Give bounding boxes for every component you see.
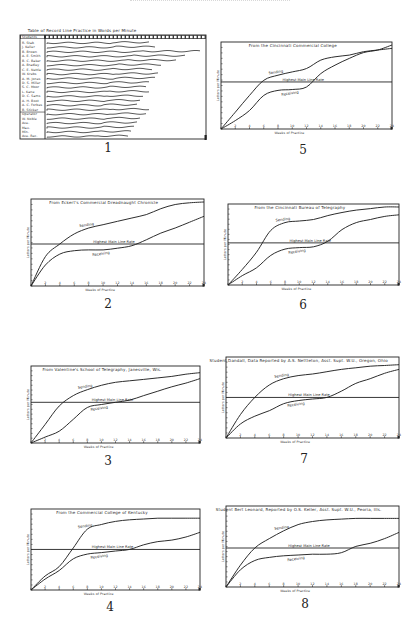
x-tick-label: 4 [248, 124, 250, 128]
figure-number-6: 6 [293, 298, 313, 312]
student-trace [47, 86, 146, 88]
series-receiving-line [221, 45, 392, 129]
table-row-label: Ave. [22, 121, 29, 125]
x-tick-label: 18 [354, 280, 358, 284]
x-tick-label: 14 [130, 281, 134, 285]
figure-2: From Eckert's Commercial Dreadnaught Chr… [25, 197, 207, 295]
x-tick-label: 24 [397, 433, 401, 437]
figure-5: From the Cincinnati Commercial CollegeLe… [215, 40, 395, 138]
student-trace [47, 91, 149, 93]
series-label: Receiving [287, 556, 305, 562]
series-label: Receiving [92, 251, 110, 257]
y-axis-label: Letters per Minute [26, 227, 30, 258]
table-row-label: L. Kane [22, 90, 34, 94]
x-tick-label: 2 [44, 281, 46, 285]
student-trace [47, 51, 200, 53]
series-label: Sending [78, 523, 93, 529]
series-receiving-line [228, 215, 399, 285]
figure-3: From Valentine's School of Telegraphy, J… [25, 364, 203, 452]
table-header-students: Students [22, 35, 37, 39]
x-tick-label: 20 [170, 438, 174, 442]
x-tick-label: 8 [283, 433, 285, 437]
x-tick-label: 22 [382, 433, 386, 437]
x-tick-label: 12 [113, 438, 117, 442]
chart-title: From the Cincinnati Bureau of Telegraphy [254, 205, 345, 210]
figure-4-line-chart: From the Commercial College of KentuckyL… [25, 507, 203, 599]
x-tick-label: 18 [156, 585, 160, 589]
series-receiving-line [31, 532, 200, 590]
x-tick-label: 16 [339, 433, 343, 437]
x-tick-label: 14 [127, 438, 131, 442]
table-row-label: A. Bradley [22, 63, 39, 67]
table-row-label: A. H. Boot [22, 99, 40, 103]
x-tick-label: 24 [397, 582, 401, 586]
figure-7: Student Dandall, Data Reported by A.S. N… [220, 355, 402, 447]
x-tick-label: 12 [113, 585, 117, 589]
x-tick-label: 14 [325, 582, 329, 586]
table-row-label: W. Noble [22, 117, 37, 121]
series-receiving-line [226, 532, 399, 587]
x-tick-label: 20 [368, 582, 372, 586]
student-trace [47, 126, 134, 128]
x-tick-label: 22 [383, 280, 387, 284]
x-tick-label: 12 [115, 281, 119, 285]
x-tick-label: 22 [382, 582, 386, 586]
student-trace [47, 100, 140, 102]
x-tick-label: 20 [368, 280, 372, 284]
x-tick-label: 8 [88, 281, 90, 285]
y-axis-label: Letters per Minute [26, 389, 30, 420]
x-tick-label: 12 [304, 124, 308, 128]
x-tick-label: 4 [254, 433, 256, 437]
series-sending-line [226, 365, 399, 438]
series-sending-line [31, 518, 200, 590]
figure-number-8: 8 [295, 597, 315, 611]
student-trace [47, 59, 176, 61]
x-tick-label: 12 [311, 280, 315, 284]
student-trace [47, 135, 128, 137]
student-trace [47, 64, 161, 66]
x-tick-label: 22 [184, 585, 188, 589]
figure-number-2: 2 [98, 297, 118, 311]
figure-8-line-chart: Student Bert Leonard, Reported by O.S. K… [220, 504, 402, 596]
x-tick-label: 24 [397, 280, 401, 284]
x-tick-label: 10 [296, 433, 300, 437]
x-tick-label: 14 [127, 585, 131, 589]
student-trace [47, 117, 140, 119]
chart-title: From Eckert's Commercial Dreadnaught Chr… [49, 200, 158, 205]
x-tick-label: 2 [234, 124, 236, 128]
table-row-label: A. M. Jones [22, 77, 41, 81]
student-trace [47, 68, 152, 70]
x-axis-label: Weeks of Practice [280, 440, 310, 444]
student-trace [47, 95, 143, 97]
chart-title: Student Bert Leonard, Reported by O.S. K… [216, 507, 382, 512]
x-tick-label: 20 [170, 585, 174, 589]
figure-6: From the Cincinnati Bureau of Telegraphy… [222, 202, 402, 294]
x-tick-label: 6 [73, 281, 75, 285]
series-sending-line [226, 518, 399, 587]
table-caption: Table of Record Line Practice in Words p… [27, 28, 137, 33]
figure-number-3: 3 [98, 454, 118, 468]
x-tick-label: 20 [173, 281, 177, 285]
student-trace [47, 108, 149, 110]
figure-number-4: 4 [100, 600, 120, 614]
threshold-label: Highest Main Line Rate [288, 544, 330, 548]
y-axis-label: Letters per Minute [223, 229, 227, 260]
x-tick-label: 2 [44, 438, 46, 442]
x-tick-label: 16 [339, 582, 343, 586]
series-receiving-line [31, 379, 200, 443]
x-axis-label: Weeks of Practice [84, 445, 114, 449]
x-tick-label: 10 [101, 281, 105, 285]
x-tick-label: 16 [333, 124, 337, 128]
series-label: Sending [274, 525, 289, 531]
x-tick-label: 18 [354, 433, 358, 437]
x-tick-label: 14 [326, 280, 330, 284]
figure-number-7: 7 [294, 452, 314, 466]
x-tick-label: 22 [187, 281, 191, 285]
table-row-label: Max. [22, 126, 30, 130]
table-row-label: D. C. Sams [22, 94, 41, 98]
x-tick-label: 8 [86, 585, 88, 589]
student-trace [47, 77, 155, 79]
x-tick-label: 8 [277, 124, 279, 128]
x-tick-label: 4 [58, 438, 60, 442]
x-axis-label: Weeks of Practice [280, 589, 310, 593]
